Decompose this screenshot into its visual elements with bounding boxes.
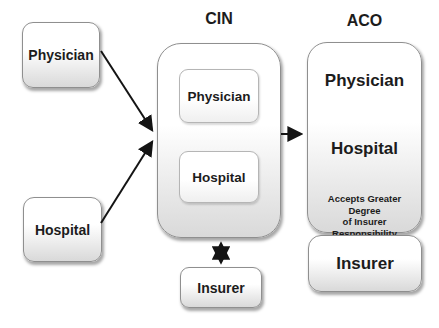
arrow-hospital-to-cin	[101, 142, 152, 223]
aco-hospital-label: Hospital	[308, 139, 421, 159]
diagram-canvas: Physician Hospital CIN Physician Hospita…	[0, 0, 439, 328]
cin-hospital-label: Hospital	[192, 170, 245, 185]
standalone-hospital-box: Hospital	[23, 197, 102, 262]
cin-container: Physician Hospital	[157, 43, 281, 238]
cin-title: CIN	[157, 10, 281, 28]
aco-insurer-label: Insurer	[336, 254, 394, 274]
aco-note-line-1: Accepts Greater Degree	[312, 193, 417, 216]
arrow-physician-to-cin	[101, 51, 152, 130]
aco-physician-label: Physician	[308, 71, 421, 91]
aco-responsibility-note: Accepts Greater Degree of Insurer Respon…	[312, 193, 417, 239]
standalone-physician-label: Physician	[28, 47, 93, 63]
cin-physician-box: Physician	[179, 69, 259, 123]
aco-container: Physician Hospital Accepts Greater Degre…	[307, 42, 422, 233]
cin-insurer-label: Insurer	[197, 280, 244, 296]
aco-note-line-2: of Insurer	[312, 216, 417, 228]
standalone-hospital-label: Hospital	[35, 222, 90, 238]
cin-hospital-box: Hospital	[179, 151, 259, 203]
cin-insurer-box: Insurer	[180, 267, 262, 308]
cin-physician-label: Physician	[187, 89, 250, 104]
standalone-physician-box: Physician	[22, 22, 100, 88]
aco-insurer-box: Insurer	[308, 235, 422, 292]
aco-title: ACO	[307, 12, 422, 30]
